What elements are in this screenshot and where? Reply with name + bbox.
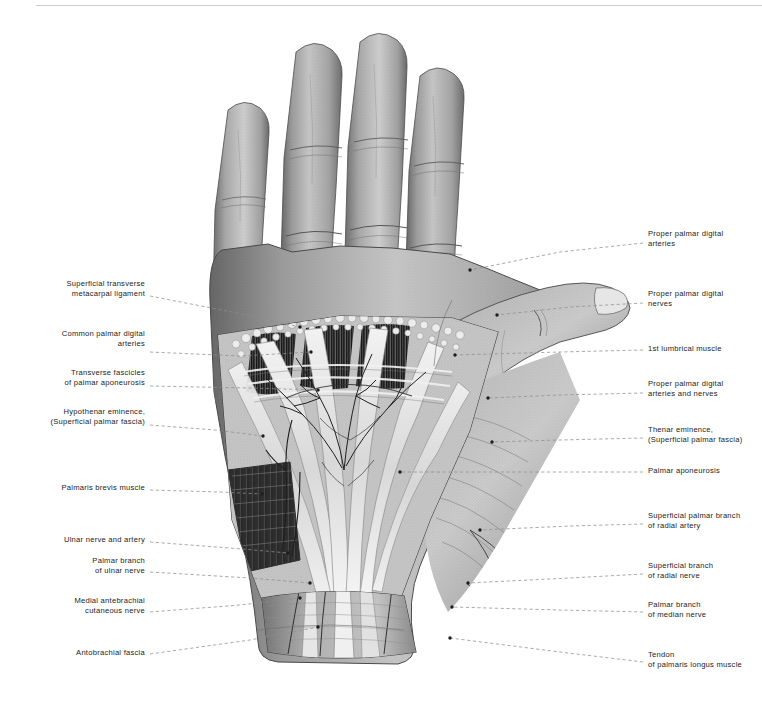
label-line: Proper palmar digital <box>648 379 723 389</box>
label-line: Thenar eminence, <box>648 425 743 435</box>
label-common-palmar-digital-arteries: Common palmar digitalarteries <box>62 329 145 350</box>
label-line: of median nerve <box>648 610 706 620</box>
label-line: metacarpal ligament <box>66 289 145 299</box>
label-line: Superficial branch <box>648 561 713 571</box>
label-hypothenar-eminence-superficial-palmar-fascia: Hypothenar eminence,(Superficial palmar … <box>50 407 145 428</box>
label-line: Palmar branch <box>648 600 706 610</box>
label-medial-antebrachial-cutaneous-nerve: Medial antebrachialcutaneous nerve <box>74 596 145 617</box>
label-transverse-fascicles-of-palmar-aponeurosis: Transverse fasciclesof palmar aponeurosi… <box>65 368 145 389</box>
label-line: Tendon <box>648 650 742 660</box>
label-line: (Superficial palmar fascia) <box>50 417 145 427</box>
label-line: Palmar branch <box>92 556 145 566</box>
label-palmar-branch-of-ulnar-nerve: Palmar branchof ulnar nerve <box>92 556 145 577</box>
label-line: arteries and nerves <box>648 389 723 399</box>
label-line: Common palmar digital <box>62 329 145 339</box>
label-line: of radial artery <box>648 521 740 531</box>
label-line: Superficial palmar branch <box>648 511 740 521</box>
label-line: Medial antebrachial <box>74 596 145 606</box>
label-line: Palmaris brevis muscle <box>61 483 145 493</box>
label-line: Superficial transverse <box>66 279 145 289</box>
label-ulnar-nerve-and-artery: Ulnar nerve and artery <box>64 535 145 545</box>
thumbnail <box>594 288 627 315</box>
label-superficial-palmar-branch-of-radial-artery: Superficial palmar branchof radial arter… <box>648 511 740 532</box>
label-line: arteries <box>648 239 723 249</box>
label-proper-palmar-digital-nerves: Proper palmar digitalnerves <box>648 289 723 310</box>
label-antebrachial-fascia: Antobrachial fascia <box>76 648 145 658</box>
anatomical-plate: Superficial transversemetacarpal ligamen… <box>0 0 762 708</box>
label-line: Proper palmar digital <box>648 289 723 299</box>
label-thenar-eminence-superficial-palmar-fascia: Thenar eminence,(Superficial palmar fasc… <box>648 425 743 446</box>
label-line: of palmar aponeurosis <box>65 378 145 388</box>
label-line: arteries <box>62 339 145 349</box>
label-line: Transverse fascicles <box>65 368 145 378</box>
label-line: Ulnar nerve and artery <box>64 535 145 545</box>
label-line: Proper palmar digital <box>648 229 723 239</box>
label-line: 1st lumbrical muscle <box>648 344 722 354</box>
label-line: of ulnar nerve <box>92 566 145 576</box>
label-proper-palmar-digital-arteries: Proper palmar digitalarteries <box>648 229 723 250</box>
label-superficial-transverse-metacarpal-ligament: Superficial transversemetacarpal ligamen… <box>66 279 145 300</box>
label-line: Palmar aponeurosis <box>648 466 720 476</box>
label-superficial-branch-of-radial-nerve: Superficial branchof radial nerve <box>648 561 713 582</box>
label-line: (Superficial palmar fascia) <box>648 435 743 445</box>
label-1st-lumbrical-muscle: 1st lumbrical muscle <box>648 344 722 354</box>
label-tendon-of-palmaris-longus-muscle: Tendonof palmaris longus muscle <box>648 650 742 671</box>
label-palmar-aponeurosis: Palmar aponeurosis <box>648 466 720 476</box>
label-line: Antobrachial fascia <box>76 648 145 658</box>
label-line: of palmaris longus muscle <box>648 660 742 670</box>
label-proper-palmar-digital-arteries-and-nerves: Proper palmar digitalarteries and nerves <box>648 379 723 400</box>
label-palmaris-brevis-muscle: Palmaris brevis muscle <box>61 483 145 493</box>
label-line: cutaneous nerve <box>74 606 145 616</box>
label-line: Hypothenar eminence, <box>50 407 145 417</box>
label-line: of radial nerve <box>648 571 713 581</box>
label-line: nerves <box>648 299 723 309</box>
label-palmar-branch-of-median-nerve: Palmar branchof median nerve <box>648 600 706 621</box>
